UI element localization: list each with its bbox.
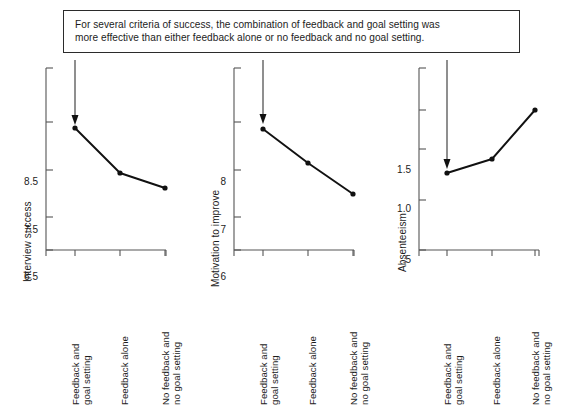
data-point-marker — [350, 191, 355, 196]
annotation-arrow-head — [444, 159, 451, 169]
chart-panel-interview-success: Interview success 8.5 7.5 6.5 — [0, 60, 188, 354]
data-point-marker — [444, 170, 449, 175]
x-category-label: Feedback and goal setting — [70, 344, 93, 405]
data-point-marker — [117, 170, 122, 175]
x-category-label: Feedback alone — [307, 336, 318, 405]
data-point-marker — [72, 125, 77, 130]
annotation-arrow-head — [72, 115, 79, 125]
data-line-series — [75, 128, 165, 188]
plot-area-interview-success — [0, 60, 188, 354]
x-category-label: Feedback alone — [119, 336, 130, 405]
data-point-marker — [305, 160, 310, 165]
chart-panel-absenteeism: Absenteeism 1.5 1.0 .5 Feedback and — [375, 60, 563, 354]
data-point-marker — [162, 185, 167, 190]
plot-area-motivation-to-improve — [188, 60, 376, 354]
data-point-marker — [532, 107, 537, 112]
chart-panel-motivation-to-improve: Motivation to improve 8 7 6 Feedback a — [188, 60, 376, 354]
plot-area-absenteeism — [375, 60, 563, 354]
data-point-marker — [489, 156, 494, 161]
caption-box: For several criteria of success, the com… — [63, 10, 520, 53]
data-line-series — [447, 110, 535, 173]
x-category-label: No feedback and no goal setting — [348, 332, 371, 405]
caption-text: For several criteria of success, the com… — [75, 18, 510, 45]
x-category-label: Feedback and goal setting — [258, 344, 281, 405]
x-category-label: Feedback alone — [491, 336, 502, 405]
data-point-marker — [260, 126, 265, 131]
annotation-arrow-head — [260, 114, 267, 124]
x-category-label: No feedback and no goal setting — [530, 332, 553, 405]
x-category-label: No feedback and no goal setting — [160, 332, 183, 405]
x-category-label: Feedback and goal setting — [442, 344, 465, 405]
